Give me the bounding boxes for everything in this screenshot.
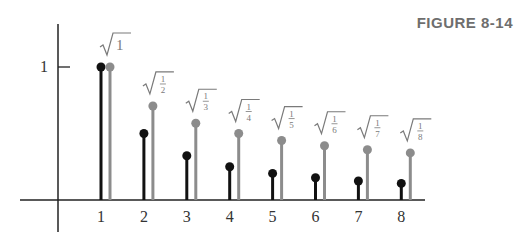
stem-dark-marker <box>268 169 277 178</box>
svg-text:1: 1 <box>375 118 380 128</box>
svg-text:5: 5 <box>289 120 294 130</box>
sqrt-annotation: 16 <box>315 112 346 135</box>
stem-gray-marker <box>148 101 157 110</box>
stem-gray-marker <box>234 129 243 138</box>
stem-gray-marker <box>363 145 372 154</box>
stem-gray-marker <box>277 136 286 145</box>
sqrt-annotation: 13 <box>186 89 217 112</box>
stem-dark-marker <box>311 173 320 182</box>
svg-text:2: 2 <box>161 85 166 95</box>
stem-dark-marker <box>182 151 191 160</box>
stem-dark-marker <box>139 129 148 138</box>
x-tick-label: 6 <box>312 208 320 225</box>
sqrt-annotation: 14 <box>229 100 260 123</box>
stem-dark-marker <box>225 162 234 171</box>
stem-gray-marker <box>106 63 115 72</box>
svg-text:1: 1 <box>204 91 209 101</box>
svg-text:6: 6 <box>332 125 337 135</box>
x-tick-label: 3 <box>183 208 191 225</box>
x-tick-label: 8 <box>397 208 405 225</box>
svg-text:8: 8 <box>418 132 423 142</box>
stem-dark-marker <box>97 63 106 72</box>
stem-gray-marker <box>320 141 329 150</box>
svg-text:1: 1 <box>289 109 294 119</box>
svg-text:1: 1 <box>418 121 423 131</box>
sqrt-annotation: 12 <box>143 72 174 95</box>
sqrt-annotation: 1 <box>100 33 131 55</box>
x-tick-label: 5 <box>269 208 277 225</box>
x-tick-label: 1 <box>97 208 105 225</box>
svg-text:1: 1 <box>116 37 124 53</box>
stem-dark-marker <box>397 179 406 188</box>
svg-text:4: 4 <box>246 113 251 123</box>
stem-dark-marker <box>354 176 363 185</box>
sqrt-annotation: 18 <box>400 119 431 142</box>
x-tick-label: 2 <box>140 208 148 225</box>
svg-text:1: 1 <box>332 114 337 124</box>
sqrt-annotation: 17 <box>357 116 388 139</box>
svg-text:1: 1 <box>246 102 251 112</box>
x-tick-label: 4 <box>226 208 234 225</box>
stem-gray-marker <box>406 148 415 157</box>
x-tick-label: 7 <box>354 208 362 225</box>
svg-text:7: 7 <box>375 129 380 139</box>
sqrt-annotation: 15 <box>272 107 303 130</box>
svg-text:1: 1 <box>161 74 166 84</box>
svg-text:3: 3 <box>204 102 209 112</box>
stem-chart: 112345678112131415161718 <box>0 0 523 234</box>
stem-gray-marker <box>191 119 200 128</box>
y-tick-label: 1 <box>40 58 48 75</box>
